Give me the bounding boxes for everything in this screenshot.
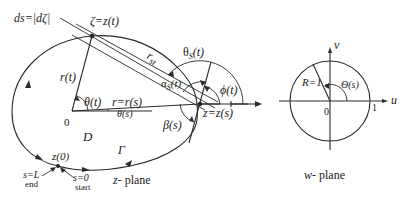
tangent-line-ds-3 <box>76 24 218 102</box>
label-theta-S-t: θS(t) <box>183 45 204 61</box>
v-axis-arrow <box>328 47 332 53</box>
curve-arrow-left <box>25 80 31 88</box>
label-gamma: Γ <box>117 143 126 157</box>
label-v: v <box>334 38 340 52</box>
label-r-eq: r=r(s) <box>112 95 142 109</box>
label-domain-D: D <box>82 129 93 144</box>
label-R: R=1 <box>301 76 322 88</box>
arc-beta-arrow <box>189 116 194 122</box>
label-theta-t: θ(t) <box>84 95 101 109</box>
boundary-curve-gamma <box>12 36 197 171</box>
point-z0 <box>56 164 60 168</box>
w-plane-caption: w- plane <box>304 168 345 182</box>
label-origin-w: 0 <box>324 106 329 117</box>
label-alpha-s-t: αS(t) <box>161 77 181 92</box>
label-z-eq: z=z(s) <box>202 106 233 120</box>
u-axis-arrow <box>382 99 388 103</box>
label-beta-s: β(s) <box>162 118 182 132</box>
arc-phi-arrow <box>204 86 210 92</box>
z-plane: ds=|dζ| ζ=z(t) rst θS(t) αS(t) ϕ(t) r(t)… <box>12 11 248 192</box>
mapping-arrow <box>231 101 262 107</box>
label-one: 1 <box>372 102 377 113</box>
label-u: u <box>391 93 397 107</box>
label-z0: z(0) <box>51 150 69 163</box>
label-Theta-s: Θ(s) <box>341 79 359 91</box>
label-start: start <box>75 182 91 192</box>
label-phi-t: ϕ(t) <box>220 83 238 97</box>
w-plane: v u R=1 Θ(s) 0 1 w- plane <box>279 38 397 182</box>
pointer-end-arrow <box>50 167 56 172</box>
label-theta-s-small: θ(s) <box>117 108 133 120</box>
label-r-t: r(t) <box>60 70 76 84</box>
z-plane-caption: z- plane <box>112 173 151 187</box>
label-zeta: ζ=z(t) <box>90 14 119 28</box>
point-zeta <box>90 34 94 38</box>
diagram-canvas: ds=|dζ| ζ=z(t) rst θS(t) αS(t) ϕ(t) r(t)… <box>0 0 408 198</box>
label-end: end <box>25 179 38 189</box>
arc-Theta-arrow <box>324 83 329 89</box>
label-origin-z: 0 <box>64 116 70 128</box>
curve-arrow-bottom-left <box>35 154 43 160</box>
label-ds: ds=|dζ| <box>14 11 50 25</box>
